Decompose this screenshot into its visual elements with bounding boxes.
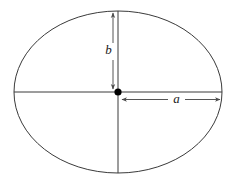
ellipse-diagram: b a bbox=[0, 0, 235, 182]
semi-minor-axis-label: b bbox=[105, 42, 112, 57]
center-point-dot bbox=[114, 88, 121, 95]
semi-major-axis-label: a bbox=[173, 91, 180, 106]
ellipse-figure-canvas: b a bbox=[0, 0, 235, 182]
